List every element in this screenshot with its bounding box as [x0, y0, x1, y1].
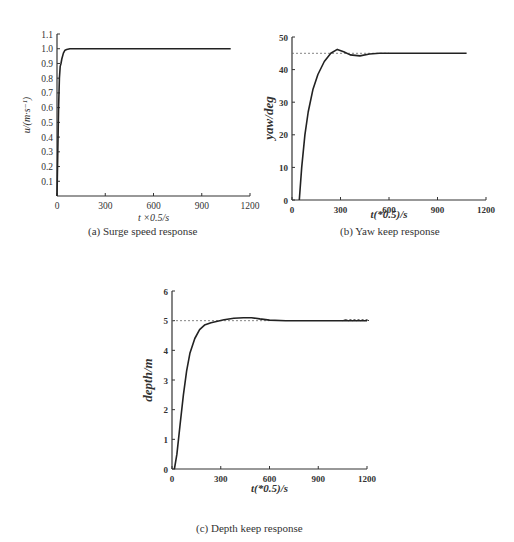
x-tick-label: 300 [214, 474, 228, 484]
y-tick-label: 0.7 [41, 88, 53, 98]
y-tick-label: 2 [164, 405, 169, 415]
x-tick-label: 300 [98, 201, 113, 211]
series-line [57, 49, 231, 196]
caption-c: (c) Depth keep response [196, 522, 303, 534]
y-tick-label: 0 [284, 196, 289, 206]
caption-b: (b) Yaw keep response [340, 225, 440, 237]
y-tick-label: 20 [279, 130, 289, 140]
series-line [299, 49, 466, 200]
chart-surge-speed: 030060090012000.10.20.30.40.50.60.70.80.… [21, 30, 260, 224]
y-tick-label: 50 [279, 33, 289, 43]
y-tick-label: 0.3 [41, 147, 53, 157]
x-tick-label: 1200 [477, 205, 496, 215]
x-tick-label: 1200 [241, 201, 260, 211]
y-tick-label: 0.8 [41, 74, 53, 84]
x-tick-label: 300 [334, 205, 348, 215]
y-axis-label: u/(m·s⁻¹) [21, 96, 33, 133]
y-tick-label: 0.1 [41, 177, 53, 187]
y-tick-label: 1.1 [41, 30, 53, 40]
y-tick-label: 0.4 [41, 133, 53, 143]
x-tick-label: 1200 [358, 474, 377, 484]
y-tick-label: 30 [279, 98, 289, 108]
y-tick-label: 1 [164, 435, 169, 445]
x-axis-label: t(*0.5)/s [251, 482, 288, 495]
x-axis-label: t ×0.5/s [138, 212, 169, 223]
y-tick-label: 3 [164, 376, 169, 386]
x-tick-label: 900 [431, 205, 445, 215]
figure-canvas: 030060090012000.10.20.30.40.50.60.70.80.… [0, 0, 514, 542]
x-tick-label: 0 [55, 201, 60, 211]
y-tick-label: 10 [279, 163, 289, 173]
x-tick-label: 0 [290, 205, 295, 215]
y-tick-label: 0.5 [41, 118, 53, 128]
chart-depth-keep: 030060090012000123456t(*0.5)/sdepth/m [140, 287, 377, 496]
y-tick-label: 0.6 [41, 103, 53, 113]
y-axis-label: depth/m [140, 358, 155, 401]
y-tick-label: 6 [164, 287, 169, 297]
y-tick-label: 5 [164, 316, 169, 326]
y-tick-label: 0.2 [41, 162, 53, 172]
y-tick-label: 1.0 [41, 44, 53, 54]
x-axis-label: t(*0.5)/s [371, 208, 408, 221]
series-line [174, 318, 367, 469]
y-tick-label: 40 [279, 65, 289, 75]
x-tick-label: 600 [146, 201, 161, 211]
x-tick-label: 900 [312, 474, 326, 484]
x-tick-label: 900 [195, 201, 210, 211]
y-tick-label: 4 [164, 346, 169, 356]
x-tick-label: 0 [170, 474, 175, 484]
caption-a: (a) Surge speed response [88, 225, 197, 237]
y-tick-label: 0 [164, 465, 169, 475]
chart-yaw-keep: 0300600900120001020304050t(*0.5)/syaw/de… [261, 33, 496, 222]
y-axis-label: yaw/deg [261, 96, 276, 142]
y-tick-label: 0.9 [41, 59, 53, 69]
